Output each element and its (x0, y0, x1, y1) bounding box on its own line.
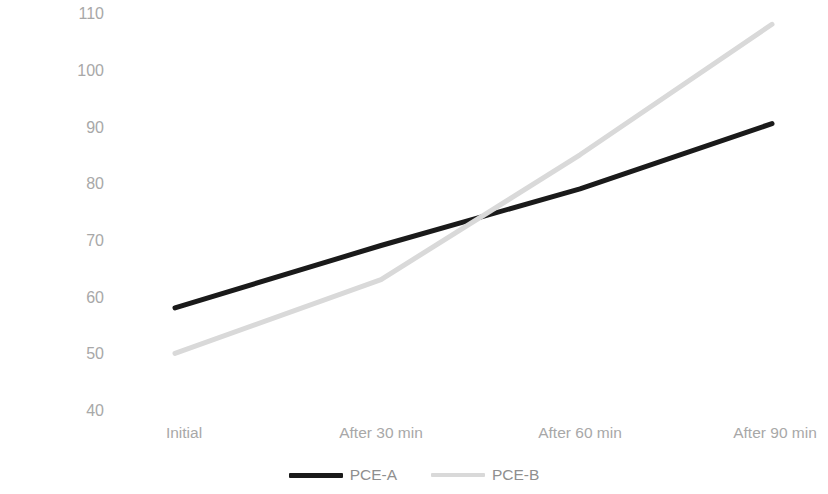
chart-legend: PCE-A PCE-B (0, 462, 828, 488)
series-line-pce-b (175, 24, 772, 353)
legend-label: PCE-A (350, 467, 397, 483)
x-axis-tick: After 60 min (538, 425, 622, 441)
line-chart: Flow time (seconds) 110 100 90 80 70 60 … (0, 0, 828, 494)
x-axis-tick: After 30 min (339, 425, 423, 441)
legend-item-pce-b: PCE-B (431, 467, 539, 483)
legend-swatch-icon (289, 473, 343, 478)
plot-area (0, 0, 828, 494)
legend-swatch-icon (431, 473, 485, 477)
legend-item-pce-a: PCE-A (289, 467, 397, 483)
x-axis-tick: Initial (166, 425, 202, 441)
legend-label: PCE-B (492, 467, 539, 483)
series-line-pce-a (175, 124, 772, 308)
x-axis-tick: After 90 min (733, 425, 817, 441)
